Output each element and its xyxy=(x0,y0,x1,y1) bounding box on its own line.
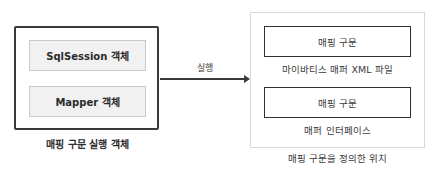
sqlsession-object-label: SqlSession 객체 xyxy=(46,48,129,63)
interface-mapping-statement-label: 매핑 구문 xyxy=(318,96,357,110)
mapper-object-label: Mapper 객체 xyxy=(55,94,119,109)
xml-mapping-statement-label: 매핑 구문 xyxy=(318,35,357,49)
mapper-object-box: Mapper 객체 xyxy=(29,86,146,117)
mapper-interface-label: 매퍼 인터페이스 xyxy=(250,123,425,137)
execute-arrow-label: 실행 xyxy=(180,61,230,74)
interface-mapping-statement-box: 매핑 구문 xyxy=(264,87,411,118)
execute-arrow-line xyxy=(160,78,246,80)
execution-objects-caption: 매핑 구문 실행 객체 xyxy=(14,136,161,151)
mybatis-mapper-xml-label: 마이바티스 매퍼 XML 파일 xyxy=(250,62,425,76)
sqlsession-object-box: SqlSession 객체 xyxy=(29,40,146,71)
mapping-locations-caption: 매핑 구문을 정의한 위치 xyxy=(250,151,425,165)
xml-mapping-statement-box: 매핑 구문 xyxy=(264,26,411,57)
